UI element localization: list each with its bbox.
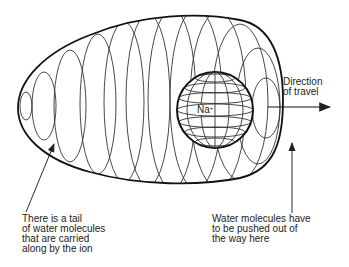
ion-label: Na+ <box>196 105 214 115</box>
ion-sphere <box>177 72 253 148</box>
tail-pointer-arrow <box>26 144 54 212</box>
direction-of-travel-label: Direction of travel <box>283 77 322 97</box>
ion-symbol: Na <box>197 104 210 115</box>
tail-annotation: There is a tail of water molecules that … <box>22 214 105 254</box>
pushed-annotation: Water molecules have to be pushed out of… <box>212 214 311 244</box>
ion-charge: + <box>210 105 214 111</box>
